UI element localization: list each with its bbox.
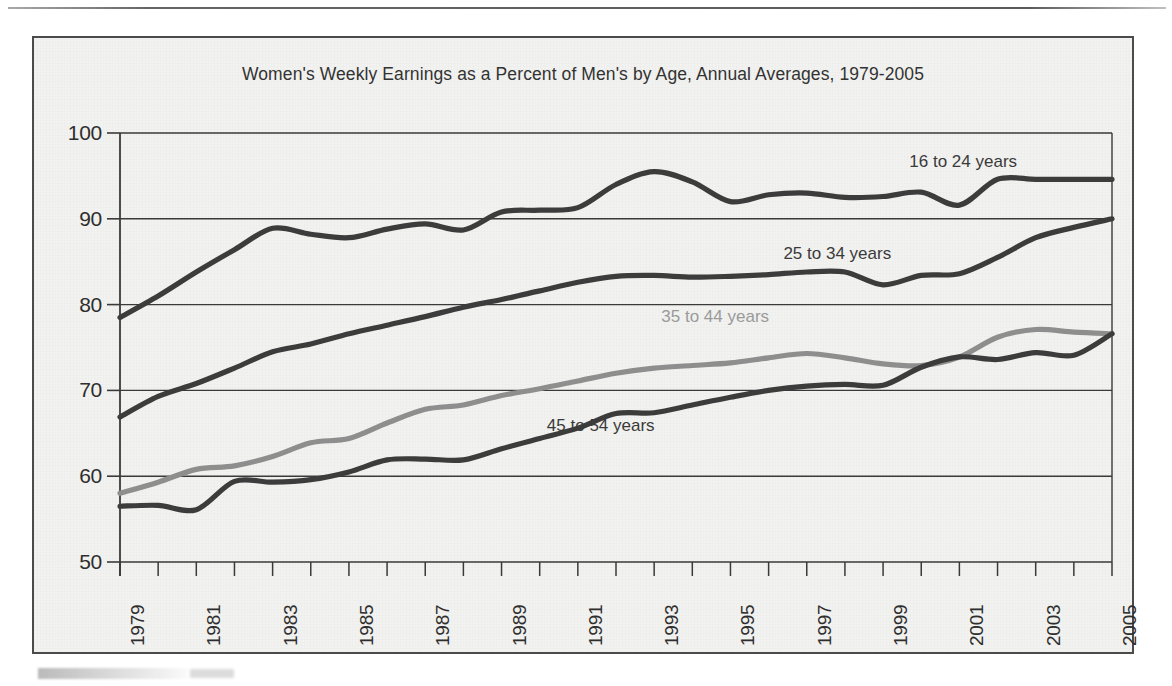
scan-artifact-secondary [190,669,234,678]
x-tick-label: 1979 [127,605,149,646]
scan-artifact [38,668,188,679]
x-tick-label: 1987 [432,605,454,646]
series-label-25-to-34-years: 25 to 34 years [783,244,891,264]
series-label-16-to-24-years: 16 to 24 years [909,152,1017,172]
x-tick-label: 2001 [966,605,988,646]
x-tick-label: 2005 [1119,605,1141,646]
x-tick-label: 1995 [737,605,759,646]
page-top-rule [8,7,1166,9]
y-tick-label: 90 [44,207,102,231]
y-tick-label: 80 [44,293,102,317]
chart-frame: Women's Weekly Earnings as a Percent of … [32,36,1134,654]
x-tick-label: 1993 [661,605,683,646]
series-label-35-to-44-years: 35 to 44 years [661,307,769,327]
y-tick-label: 100 [44,121,102,145]
y-tick-label: 70 [44,378,102,402]
series-label-45-to-54-years: 45 to 54 years [547,416,655,436]
series-line-25-to-34-years [120,219,1112,417]
series-line-16-to-24-years [120,172,1112,318]
y-tick-label: 60 [44,464,102,488]
x-tick-label: 1991 [585,605,607,646]
x-tick-label: 1989 [509,605,531,646]
x-tick-label: 1999 [890,605,912,646]
x-tick-label: 1985 [356,605,378,646]
x-tick-label: 2003 [1043,605,1065,646]
y-tick-label: 50 [44,550,102,574]
x-tick-label: 1997 [814,605,836,646]
x-tick-label: 1981 [203,605,225,646]
line-chart-plot [34,38,1132,652]
x-tick-label: 1983 [280,605,302,646]
page-root: Women's Weekly Earnings as a Percent of … [0,0,1172,686]
